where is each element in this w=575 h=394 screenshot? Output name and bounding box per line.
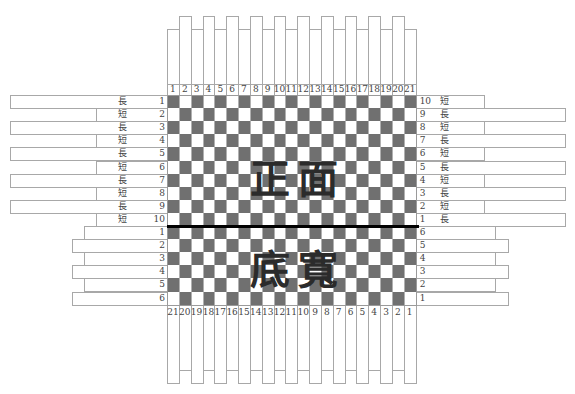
strip-kind-label: 短 — [118, 213, 127, 226]
checker-cell-light — [238, 292, 250, 306]
column-number-bottom: 21 — [167, 307, 179, 318]
checker-cell-dark — [226, 292, 238, 306]
checker-cell-light — [179, 200, 191, 214]
checker-cell-dark — [380, 278, 392, 292]
checker-cell-dark — [167, 121, 179, 135]
strip-kind-label: 短 — [118, 187, 127, 200]
checker-cell-light — [392, 174, 404, 188]
horizontal-strip-left — [10, 95, 168, 109]
checker-cell-light — [404, 108, 416, 122]
checker-cell-light — [368, 278, 380, 292]
column-number-top: 15 — [333, 84, 345, 95]
grid-line-vertical — [368, 95, 369, 305]
checker-cell-light — [356, 239, 368, 253]
checker-cell-light — [392, 252, 404, 266]
checker-cell-dark — [238, 226, 250, 240]
checker-cell-dark — [214, 147, 226, 161]
strip-number-label: 6 — [146, 161, 165, 174]
horizontal-strip-right — [416, 147, 485, 161]
checker-cell-dark — [167, 174, 179, 188]
horizontal-strip-right-bottom — [416, 278, 496, 292]
column-number-top: 10 — [274, 84, 286, 95]
vertical-strip-top — [404, 29, 417, 85]
column-number-top: 18 — [368, 84, 380, 95]
checker-cell-light — [250, 121, 262, 135]
checker-cell-dark — [191, 147, 203, 161]
checker-cell-light — [404, 265, 416, 279]
checker-cell-light — [214, 187, 226, 201]
strip-number-label: 4 — [420, 174, 426, 187]
strip-number-label: 9 — [420, 108, 426, 121]
checker-cell-light — [285, 134, 297, 148]
checker-cell-dark — [356, 174, 368, 188]
column-number-top: 8 — [250, 84, 262, 95]
checker-cell-dark — [297, 108, 309, 122]
checker-cell-dark — [356, 147, 368, 161]
checker-cell-dark — [226, 187, 238, 201]
checker-cell-dark — [345, 239, 357, 253]
checker-cell-dark — [191, 95, 203, 109]
strip-number-label: 5 — [146, 147, 165, 160]
checker-cell-dark — [285, 95, 297, 109]
checker-cell-dark — [404, 121, 416, 135]
column-number-bottom: 19 — [191, 307, 203, 318]
horizontal-strip-left — [10, 174, 168, 188]
strip-kind-label: 短 — [440, 121, 449, 134]
checker-cell-light — [179, 95, 191, 109]
checker-cell-dark — [404, 147, 416, 161]
grid-line-vertical — [238, 95, 239, 305]
checker-cell-light — [345, 252, 357, 266]
strip-kind-label: 長 — [440, 108, 449, 121]
checker-cell-dark — [238, 200, 250, 214]
checker-cell-light — [404, 187, 416, 201]
checker-cell-light — [356, 108, 368, 122]
checker-cell-dark — [179, 292, 191, 306]
column-number-top: 16 — [345, 84, 357, 95]
checker-cell-dark — [214, 121, 226, 135]
checker-cell-dark — [368, 292, 380, 306]
checker-cell-light — [191, 265, 203, 279]
column-number-top: 19 — [380, 84, 392, 95]
checker-cell-dark — [321, 108, 333, 122]
checker-cell-dark — [214, 95, 226, 109]
checker-cell-light — [380, 265, 392, 279]
column-number-top: 3 — [191, 84, 203, 95]
checker-cell-dark — [179, 265, 191, 279]
checker-cell-light — [345, 200, 357, 214]
checker-cell-dark — [226, 134, 238, 148]
checker-cell-dark — [214, 226, 226, 240]
column-number-top: 9 — [262, 84, 274, 95]
horizontal-strip-right — [416, 121, 485, 135]
checker-cell-dark — [392, 134, 404, 148]
checker-cell-light — [380, 187, 392, 201]
strip-number-label: 2 — [420, 278, 426, 291]
strip-number-label: 2 — [146, 108, 165, 121]
checker-cell-light — [297, 121, 309, 135]
strip-kind-label: 長 — [118, 174, 127, 187]
column-number-bottom: 18 — [203, 307, 215, 318]
checker-cell-light — [274, 121, 286, 135]
horizontal-strip-right — [416, 134, 566, 148]
checker-cell-dark — [345, 134, 357, 148]
strip-number-label: 8 — [146, 187, 165, 200]
checker-cell-dark — [356, 121, 368, 135]
horizontal-strip-left — [10, 200, 168, 214]
checker-cell-dark — [191, 226, 203, 240]
checker-cell-dark — [392, 161, 404, 175]
checker-cell-dark — [203, 187, 215, 201]
checker-cell-light — [238, 108, 250, 122]
horizontal-strip-right-bottom — [416, 252, 496, 266]
checker-cell-light — [368, 174, 380, 188]
column-number-top: 12 — [297, 84, 309, 95]
checker-cell-dark — [191, 252, 203, 266]
checker-cell-light — [203, 147, 215, 161]
checker-cell-dark — [392, 265, 404, 279]
column-number-bottom: 10 — [297, 307, 309, 318]
checker-cell-dark — [226, 265, 238, 279]
checker-cell-dark — [345, 108, 357, 122]
checker-cell-light — [321, 121, 333, 135]
checker-cell-light — [368, 95, 380, 109]
checker-cell-dark — [380, 121, 392, 135]
checker-cell-light — [226, 95, 238, 109]
checker-cell-light — [238, 265, 250, 279]
